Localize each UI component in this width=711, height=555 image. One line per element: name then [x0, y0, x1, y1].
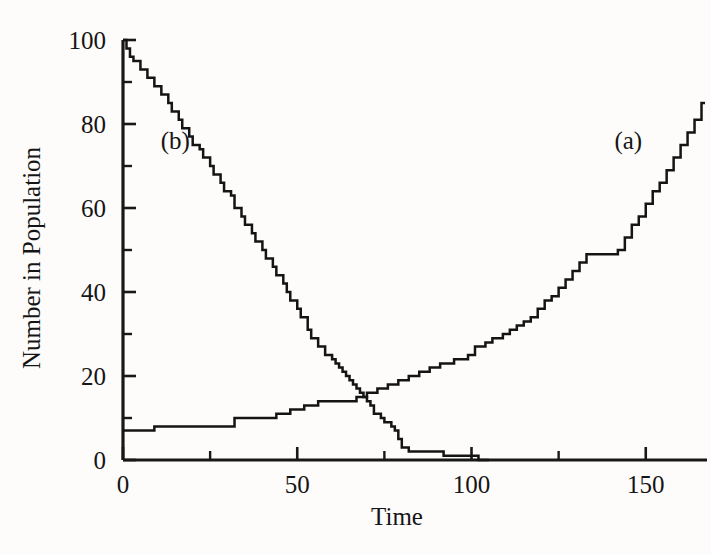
series-annotation: (b) — [161, 127, 190, 155]
x-tick-label: 150 — [627, 471, 665, 498]
series-line-b — [123, 40, 489, 460]
series-annotations-group: (a)(b) — [161, 127, 643, 155]
y-tick-label: 0 — [94, 447, 107, 474]
y-axis-title: Number in Population — [18, 146, 45, 369]
x-axis-title: Time — [371, 503, 423, 530]
y-tick-label: 60 — [81, 195, 106, 222]
x-tick-label: 100 — [453, 471, 491, 498]
y-tick-label: 40 — [81, 279, 106, 306]
y-tick-label: 80 — [81, 111, 106, 138]
y-tick-label: 100 — [69, 27, 107, 54]
ticks-group — [123, 40, 646, 460]
series-annotation: (a) — [614, 127, 642, 155]
series-group — [123, 40, 705, 460]
y-tick-label: 20 — [81, 363, 106, 390]
figure-container: 020406080100050100150 (a)(b) Time Number… — [0, 0, 711, 555]
x-tick-label: 0 — [117, 471, 130, 498]
population-line-chart: 020406080100050100150 (a)(b) Time Number… — [0, 0, 711, 555]
x-tick-label: 50 — [285, 471, 310, 498]
